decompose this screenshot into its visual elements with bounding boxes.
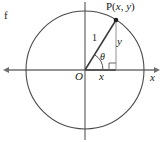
- horizontal-leg-label: x: [99, 71, 104, 82]
- unit-circle-figure: f P(x, y) 1 y x O θ x: [0, 0, 160, 142]
- vertical-leg-label: y: [117, 36, 122, 47]
- point-p-prefix: P(: [106, 0, 116, 12]
- x-axis-label: x: [150, 72, 155, 83]
- angle-theta-label: θ: [100, 52, 105, 62]
- right-angle-marker: [109, 63, 116, 70]
- origin-label: O: [75, 71, 83, 82]
- point-p-suffix: ): [131, 0, 135, 12]
- figure-marker: f: [4, 10, 8, 21]
- point-p-label: P(x, y): [106, 1, 135, 12]
- radius-length-label: 1: [92, 33, 97, 43]
- point-p-marker: [114, 18, 119, 23]
